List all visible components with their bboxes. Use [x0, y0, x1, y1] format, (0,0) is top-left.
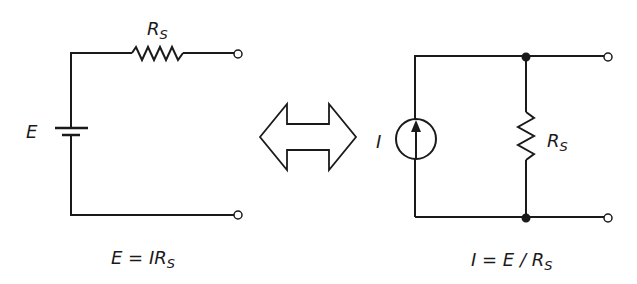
series-resistor — [132, 47, 183, 60]
current-source-circuit — [396, 53, 612, 222]
terminal-top-left — [234, 50, 242, 58]
node-bottom — [523, 215, 530, 222]
shunt-resistor — [518, 112, 534, 160]
series-resistor-label: RS — [147, 18, 168, 42]
voltage-source-label: E — [26, 121, 38, 142]
shunt-resistor-label: RS — [547, 130, 568, 154]
right-equation: I = E / RS — [471, 249, 553, 273]
left-equation: E = IRS — [111, 247, 175, 271]
left-top-wire — [71, 53, 132, 127]
terminal-bottom-left — [234, 211, 242, 219]
source-transformation-diagram: RS E E = IRS I RS I = E / RS — [0, 0, 637, 284]
terminal-bottom-right — [604, 214, 612, 222]
current-source-label: I — [376, 131, 381, 152]
left-bottom-wire — [71, 135, 234, 215]
double-arrow-icon — [260, 104, 356, 170]
voltage-source-circuit — [55, 47, 242, 219]
terminal-top-right — [604, 53, 612, 61]
right-left-wire — [415, 56, 604, 217]
node-top — [523, 54, 530, 61]
